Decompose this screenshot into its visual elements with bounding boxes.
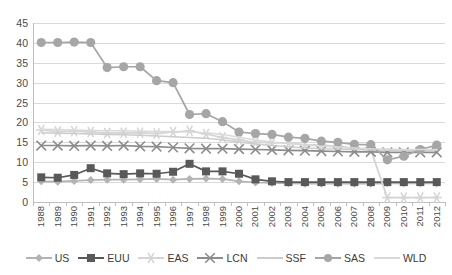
data-point-star	[146, 253, 156, 263]
data-point-circle	[284, 133, 293, 142]
data-point-star	[399, 192, 409, 202]
legend-marker-none-icon	[374, 252, 400, 264]
data-point-circle	[201, 109, 210, 118]
data-point-square	[433, 178, 441, 186]
legend-marker-star-icon	[138, 252, 164, 264]
data-point-square	[37, 173, 45, 181]
data-point-square	[301, 178, 309, 186]
legend-item-wld[interactable]: WLD	[374, 252, 426, 264]
data-point-diamond	[219, 175, 227, 183]
data-point-square	[103, 169, 111, 177]
data-point-square	[416, 178, 424, 186]
legend-label: EAS	[166, 252, 188, 264]
data-point-star	[118, 128, 128, 138]
data-point-circle	[53, 38, 62, 47]
data-point-diamond	[186, 175, 194, 183]
data-point-star	[69, 126, 79, 136]
data-point-square	[383, 178, 391, 186]
data-point-diamond	[35, 254, 43, 262]
data-point-square	[70, 171, 78, 179]
data-point-circle	[317, 137, 326, 146]
data-point-star	[85, 127, 95, 137]
legend-item-euu[interactable]: EUU	[78, 252, 129, 264]
data-point-square	[153, 170, 161, 178]
data-point-square	[235, 170, 243, 178]
data-point-square	[317, 178, 325, 186]
legend-item-ssf[interactable]: SSF	[257, 252, 306, 264]
legend-marker-square-icon	[78, 252, 104, 264]
data-point-square	[219, 167, 227, 175]
data-point-square	[87, 164, 95, 172]
data-point-square	[186, 160, 194, 168]
series-layer	[0, 0, 452, 275]
data-point-circle	[324, 254, 332, 262]
legend: USEUUEASLCNSSFSASWLD	[0, 247, 452, 269]
data-point-square	[202, 167, 210, 175]
data-point-cross	[206, 253, 216, 263]
data-point-circle	[234, 127, 243, 136]
legend-item-us[interactable]: US	[26, 252, 70, 264]
data-point-circle	[86, 38, 95, 47]
legend-label: EUU	[106, 252, 129, 264]
legend-label: LCN	[225, 252, 247, 264]
data-point-circle	[37, 38, 46, 47]
legend-label: SAS	[343, 252, 365, 264]
data-point-star	[184, 126, 194, 136]
data-point-square	[400, 178, 408, 186]
data-point-square	[367, 178, 375, 186]
data-point-star	[53, 126, 63, 136]
data-point-circle	[267, 130, 276, 139]
legend-marker-circle-icon	[315, 252, 341, 264]
data-point-square	[268, 177, 276, 185]
data-point-square	[87, 254, 95, 262]
legend-marker-diamond-icon	[26, 252, 52, 264]
data-point-star	[432, 192, 442, 202]
data-point-circle	[432, 141, 441, 150]
data-point-diamond	[169, 176, 177, 184]
legend-label: WLD	[402, 252, 426, 264]
data-point-circle	[136, 62, 145, 71]
data-point-circle	[152, 76, 161, 85]
data-point-star	[151, 128, 161, 138]
data-point-circle	[383, 155, 392, 164]
data-point-square	[284, 178, 292, 186]
legend-label: US	[54, 252, 70, 264]
line-chart: 051015202530354045 198819891990199119921…	[0, 0, 452, 275]
legend-item-eas[interactable]: EAS	[138, 252, 188, 264]
data-point-square	[54, 174, 62, 182]
data-point-circle	[119, 62, 128, 71]
data-point-square	[350, 178, 358, 186]
data-point-circle	[300, 134, 309, 143]
data-point-square	[136, 169, 144, 177]
data-point-circle	[333, 138, 342, 147]
data-point-star	[135, 128, 145, 138]
data-point-diamond	[202, 175, 210, 183]
data-point-diamond	[235, 177, 243, 185]
data-point-square	[251, 175, 259, 183]
legend-marker-cross-icon	[197, 252, 223, 264]
data-point-circle	[399, 152, 408, 161]
data-point-star	[415, 192, 425, 202]
data-point-star	[382, 192, 392, 202]
data-point-star	[102, 128, 112, 138]
legend-label: SSF	[285, 252, 306, 264]
data-point-square	[169, 168, 177, 176]
legend-item-lcn[interactable]: LCN	[197, 252, 247, 264]
legend-marker-none-icon	[257, 252, 283, 264]
legend-item-sas[interactable]: SAS	[315, 252, 365, 264]
data-point-square	[120, 170, 128, 178]
data-point-circle	[70, 37, 79, 46]
data-point-circle	[185, 110, 194, 119]
data-point-square	[334, 178, 342, 186]
data-point-circle	[103, 63, 112, 72]
data-point-diamond	[87, 176, 95, 184]
data-point-circle	[168, 78, 177, 87]
data-point-circle	[218, 117, 227, 126]
data-point-circle	[251, 129, 260, 138]
